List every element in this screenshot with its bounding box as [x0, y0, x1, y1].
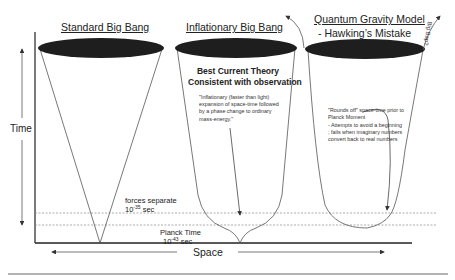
forces-time-exp: -35	[133, 204, 140, 210]
forces-time-unit: sec	[143, 205, 155, 214]
time-axis-label: Time	[10, 123, 32, 134]
forces-separate-time: 10-35 sec	[125, 205, 177, 214]
planck-time-text: Planck Time	[160, 228, 201, 237]
title-standard-big-bang: Standard Big Bang	[61, 21, 149, 33]
planck-time-value: 10-43 sec	[160, 237, 201, 246]
inflationary-pointer-arrow	[230, 128, 240, 215]
planck-time-unit: sec	[181, 237, 193, 246]
inflationary-heading: Best Current Theory Consistent with obse…	[188, 66, 288, 88]
forces-separate-label: forces separate 10-35 sec	[125, 196, 177, 214]
inflationary-ellipse	[175, 38, 297, 58]
inflationary-note: "Inflationary (faster than light) expans…	[199, 94, 279, 123]
space-axis-label: Space	[193, 246, 223, 258]
quantum-ellipse	[305, 39, 425, 59]
subtitle-hawkings-mistake: - Hawking’s Mistake	[318, 27, 411, 39]
inflationary-heading-line1: Best Current Theory	[188, 66, 288, 77]
title-quantum-gravity-model: Quantum Gravity Model	[314, 13, 425, 25]
inflationary-heading-line2: Consistent with observation	[188, 77, 288, 88]
quantum-note-line2: - Attempts to avoid a beginning ; fails …	[328, 122, 404, 144]
standard-ellipse	[38, 38, 164, 58]
planck-time-label: Planck Time 10-43 sec	[160, 228, 201, 246]
standard-cone-left	[40, 49, 100, 243]
quantum-note-line1: "Rounds off" space-time prior to Planck …	[328, 107, 410, 121]
planck-time-exp: -43	[171, 236, 178, 242]
title-inflationary-big-bang: Inflationary Big Bang	[186, 21, 283, 33]
